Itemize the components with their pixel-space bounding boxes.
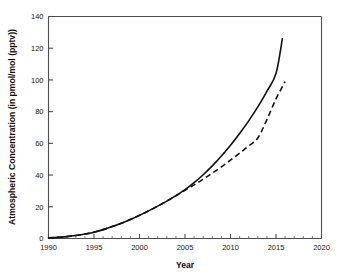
y-tick-label: 80: [35, 107, 43, 116]
y-axis-title: Atmospheric Concentration (in pmol/mol (…: [7, 29, 17, 225]
x-tick-label: 2020: [313, 243, 330, 252]
x-axis-title: Year: [176, 260, 195, 270]
x-tick-label: 1990: [40, 243, 57, 252]
x-tick-label: 2000: [131, 243, 148, 252]
atmospheric-concentration-line-chart: 1990199520002005201020152020 02040608010…: [0, 0, 348, 276]
y-tick-label: 60: [35, 139, 43, 148]
x-tick-label: 2015: [268, 243, 285, 252]
y-tick-label: 0: [39, 234, 43, 243]
y-tick-label: 140: [31, 12, 44, 21]
y-tick-label: 20: [35, 203, 43, 212]
chart-figure: 1990199520002005201020152020 02040608010…: [0, 0, 348, 276]
x-tick-label: 1995: [86, 243, 103, 252]
y-tick-label: 40: [35, 171, 43, 180]
y-tick-label: 100: [31, 76, 44, 85]
y-tick-label: 120: [31, 44, 44, 53]
x-tick-label: 2005: [177, 243, 194, 252]
chart-background: [0, 0, 348, 276]
x-tick-label: 2010: [222, 243, 239, 252]
